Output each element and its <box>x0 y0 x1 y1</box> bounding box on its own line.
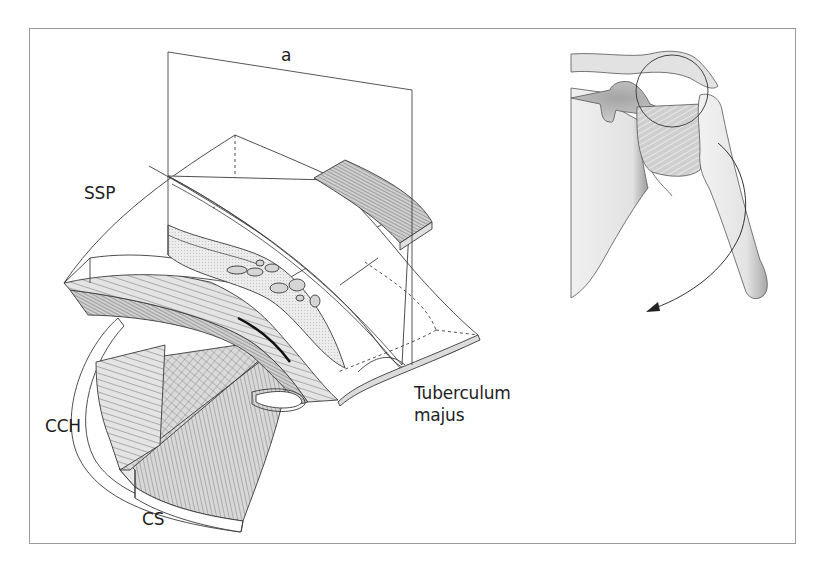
clavicle <box>571 51 718 88</box>
label-tuberculum: Tuberculum <box>414 382 511 404</box>
label-cch: CCH <box>45 415 81 437</box>
shoulder-overview <box>571 51 767 312</box>
plane-label-a: a <box>281 44 291 66</box>
rotator-cuff-schematic <box>64 52 480 532</box>
label-majus: majus <box>414 404 464 426</box>
label-ssp: SSP <box>84 182 115 204</box>
arrowhead-icon <box>646 302 660 312</box>
label-cs: CS <box>142 508 164 530</box>
rotator-cuff-muscle <box>637 104 705 176</box>
humerus <box>698 94 767 298</box>
diagram-canvas <box>0 0 813 561</box>
